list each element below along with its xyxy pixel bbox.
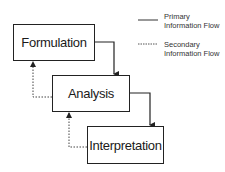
primary-arrow-formulation-to-analysis	[95, 42, 114, 74]
interpretation-box: Interpretation	[87, 126, 164, 164]
formulation-box: Formulation	[13, 24, 95, 61]
legend-secondary-text: Secondary Information Flow	[164, 40, 219, 58]
analysis-label: Analysis	[68, 86, 114, 101]
interpretation-label: Interpretation	[89, 138, 161, 153]
formulation-label: Formulation	[21, 35, 86, 50]
secondary-arrow-analysis-to-formulation	[33, 62, 52, 97]
analysis-box: Analysis	[52, 75, 130, 112]
primary-arrow-analysis-to-interpretation	[130, 93, 150, 125]
legend-primary-text: Primary Information Flow	[164, 12, 219, 30]
secondary-arrow-interpretation-to-analysis	[69, 113, 87, 147]
